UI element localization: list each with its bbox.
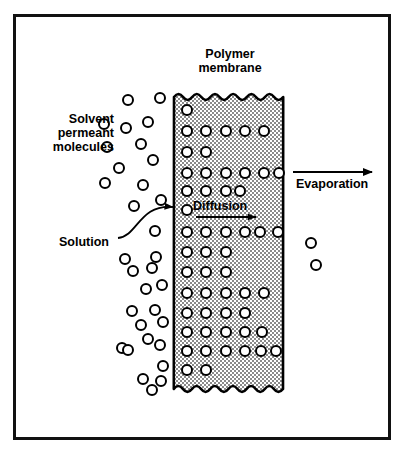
- membrane-molecule: [259, 288, 269, 298]
- solution-molecule: [157, 280, 167, 290]
- solution-molecule: [136, 139, 146, 149]
- membrane-molecule: [201, 126, 211, 136]
- evaporated-molecule: [311, 260, 321, 270]
- solution-molecule: [147, 263, 157, 273]
- membrane-molecule: [221, 267, 231, 277]
- membrane-molecule: [240, 327, 250, 337]
- membrane-molecule: [257, 327, 267, 337]
- membrane-molecule: [182, 186, 192, 196]
- membrane-molecule: [182, 247, 192, 257]
- membrane-molecule: [259, 168, 269, 178]
- solution-molecule: [128, 266, 138, 276]
- membrane-molecule: [201, 346, 211, 356]
- membrane-molecule: [221, 247, 231, 257]
- solution-molecule: [123, 345, 133, 355]
- membrane-molecule: [182, 327, 192, 337]
- membrane-molecule: [240, 227, 250, 237]
- solution-molecule: [143, 117, 153, 127]
- solution-molecule: [100, 178, 110, 188]
- membrane-molecule: [259, 126, 269, 136]
- membrane-molecule: [221, 288, 231, 298]
- solution-molecule: [123, 95, 133, 105]
- solution-molecule: [148, 155, 158, 165]
- solution-molecule: [120, 254, 130, 264]
- solution-molecule: [155, 340, 165, 350]
- membrane-molecule: [201, 308, 211, 318]
- membrane-molecule: [201, 365, 211, 375]
- membrane-molecule: [201, 147, 211, 157]
- solvent-permeant-molecules-label: Solvent permeant molecules: [16, 112, 114, 154]
- membrane-molecule: [182, 105, 192, 115]
- membrane-molecule: [221, 308, 231, 318]
- membrane-molecule: [240, 126, 250, 136]
- solution-molecule: [138, 374, 148, 384]
- solution-molecule: [150, 305, 160, 315]
- membrane-molecule: [201, 227, 211, 237]
- solution-molecule: [143, 334, 153, 344]
- membrane-molecule: [201, 168, 211, 178]
- membrane-molecule: [221, 168, 231, 178]
- evaporated-molecule: [306, 238, 316, 248]
- solution-molecule: [150, 226, 160, 236]
- membrane-molecule: [221, 346, 231, 356]
- membrane-molecule: [240, 346, 250, 356]
- membrane-molecule: [201, 327, 211, 337]
- membrane-molecule: [201, 267, 211, 277]
- membrane-molecule: [201, 288, 211, 298]
- membrane-molecule: [273, 227, 283, 237]
- membrane-molecule: [201, 247, 211, 257]
- solution-label: Solution: [59, 235, 109, 249]
- membrane-molecule: [182, 267, 192, 277]
- polymer-membrane-label: Polymer membrane: [176, 47, 284, 75]
- solution-molecule: [155, 93, 165, 103]
- pervaporation-diagram: Polymer membrane Solvent permeant molecu…: [0, 0, 406, 456]
- membrane-molecule: [182, 365, 192, 375]
- membrane-molecule: [182, 147, 192, 157]
- solution-molecule: [129, 201, 139, 211]
- solution-molecule: [156, 376, 166, 386]
- membrane-molecule: [240, 168, 250, 178]
- membrane-molecule: [274, 168, 284, 178]
- solution-molecule: [158, 361, 168, 371]
- solution-pointer-arrow: [118, 207, 173, 238]
- membrane-molecule: [201, 186, 211, 196]
- evaporated-molecule-group: [306, 238, 321, 270]
- solution-molecule: [121, 123, 131, 133]
- membrane-molecule: [182, 227, 192, 237]
- solution-molecule: [141, 284, 151, 294]
- membrane-molecule: [182, 126, 192, 136]
- membrane-molecule: [182, 288, 192, 298]
- diffusion-label: Diffusion: [193, 199, 247, 213]
- solution-molecule: [147, 385, 157, 395]
- membrane-molecule: [221, 186, 231, 196]
- membrane-molecule: [271, 346, 281, 356]
- membrane-molecule: [256, 346, 266, 356]
- solution-molecule: [114, 163, 124, 173]
- solution-molecule: [158, 317, 168, 327]
- evaporation-label: Evaporation: [296, 177, 368, 191]
- solution-molecule: [151, 252, 161, 262]
- solution-molecule: [127, 306, 137, 316]
- membrane-molecule: [221, 327, 231, 337]
- membrane-molecule: [255, 227, 265, 237]
- solution-molecule: [136, 320, 146, 330]
- membrane-molecule: [182, 205, 192, 215]
- membrane-molecule: [240, 288, 250, 298]
- membrane-molecule: [221, 126, 231, 136]
- membrane-molecule: [182, 168, 192, 178]
- membrane-molecule: [221, 227, 231, 237]
- membrane-molecule: [240, 308, 250, 318]
- solution-molecule: [156, 195, 166, 205]
- membrane-molecule: [182, 308, 192, 318]
- solution-molecule: [138, 180, 148, 190]
- membrane-molecule: [235, 186, 245, 196]
- membrane-molecule: [182, 346, 192, 356]
